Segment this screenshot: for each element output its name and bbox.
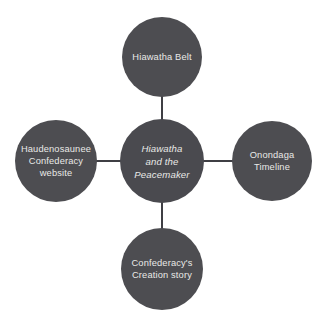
- connector-center-to-top: [161, 95, 163, 122]
- node-hiawatha-belt[interactable]: Hiawatha Belt: [122, 17, 202, 97]
- connector-center-to-bottom: [161, 200, 163, 230]
- concept-map-diagram: Hiawatha Belt Haudenosaunee Confederacy …: [0, 0, 327, 334]
- node-confederacys-creation-story-label: Confederacy's Creation story: [131, 257, 192, 281]
- connector-center-to-left: [94, 160, 121, 162]
- node-onondaga-timeline[interactable]: Onondaga Timeline: [232, 121, 312, 201]
- connector-center-to-right: [203, 160, 233, 162]
- node-hiawatha-belt-label: Hiawatha Belt: [132, 51, 191, 63]
- node-haudenosaunee-confederacy-website[interactable]: Haudenosaunee Confederacy website: [15, 120, 97, 202]
- node-haudenosaunee-confederacy-website-label: Haudenosaunee Confederacy website: [21, 143, 91, 180]
- node-hiawatha-and-the-peacemaker[interactable]: Hiawatha and the Peacemaker: [120, 119, 204, 203]
- node-hiawatha-and-the-peacemaker-label: Hiawatha and the Peacemaker: [134, 142, 189, 181]
- node-onondaga-timeline-label: Onondaga Timeline: [250, 149, 295, 173]
- node-confederacys-creation-story[interactable]: Confederacy's Creation story: [121, 228, 203, 310]
